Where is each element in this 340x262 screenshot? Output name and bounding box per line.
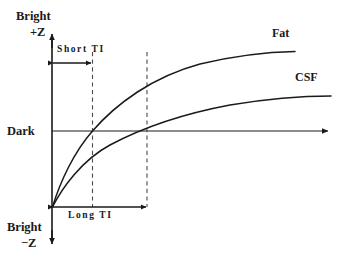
plot-canvas [0,0,340,262]
fat-curve-label: Fat [272,27,289,39]
y-axis-bottom-bright-label: Bright [7,221,42,234]
y-axis-top-bright-label: Bright [16,10,51,23]
long-ti-label: Long TI [68,211,113,221]
y-axis-plus-z-label: +Z [30,26,45,39]
short-ti-label: Short TI [57,45,105,55]
csf-curve-label: CSF [295,71,318,83]
y-axis-minus-z-label: −Z [21,237,36,250]
fat-curve [53,52,296,208]
mri-inversion-recovery-figure: Bright +Z Dark Bright −Z Fat CSF Short T… [0,0,340,262]
y-axis-dark-label: Dark [7,125,35,138]
csf-curve [53,96,332,207]
